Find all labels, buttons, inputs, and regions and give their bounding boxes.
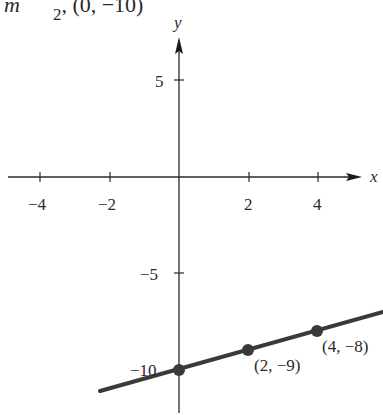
graph-figure: m 2, (0, −10) y x −4 −2 2 4 5 −5 −10 (2,: [0, 0, 383, 415]
x-tick-label: 2: [244, 196, 253, 213]
point-label: (4, −8): [322, 338, 368, 355]
y-tick-label: −10: [130, 362, 157, 379]
data-point: [173, 364, 185, 376]
y-tick-label: −5: [140, 266, 158, 283]
data-point: [311, 325, 323, 337]
x-tick-label: −4: [28, 196, 46, 213]
x-tick-label: 4: [313, 196, 322, 213]
y-tick-label: 5: [155, 73, 164, 90]
point-label: (2, −9): [254, 357, 300, 374]
y-axis-label: y: [174, 14, 182, 31]
x-axis-label: x: [370, 168, 378, 185]
data-point: [242, 344, 254, 356]
x-tick-label: −2: [98, 196, 116, 213]
